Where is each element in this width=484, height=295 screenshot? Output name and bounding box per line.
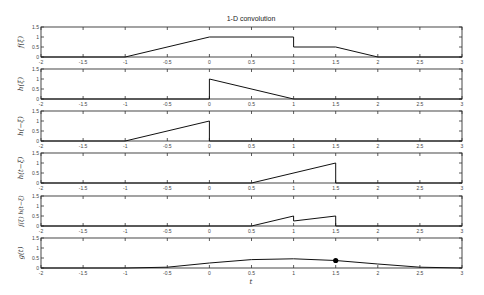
axes-frame bbox=[41, 27, 462, 57]
subplot-f: -2-1.5-1-0.500.511.522.5300.511.5f(ξ) bbox=[17, 24, 464, 65]
x-tick-label: 3 bbox=[461, 101, 464, 107]
x-tick-label: -1 bbox=[123, 143, 128, 149]
y-tick-label: 0 bbox=[36, 96, 39, 102]
x-tick-label: -1 bbox=[123, 228, 128, 234]
x-tick-label: 0.5 bbox=[248, 228, 255, 234]
convolution-figure: 1-D convolution -2-1.5-1-0.500.511.522.5… bbox=[0, 0, 484, 295]
y-axis-label: h(ξ) bbox=[17, 77, 25, 91]
x-tick-label: 0.5 bbox=[248, 185, 255, 191]
subplot-product: -2-1.5-1-0.500.511.522.5300.511.5f(ξ) h(… bbox=[17, 193, 464, 234]
x-tick-label: -1 bbox=[123, 101, 128, 107]
x-tick-label: -1.5 bbox=[79, 59, 88, 65]
axes-frame bbox=[41, 238, 462, 268]
chart-title: 1-D convolution bbox=[227, 15, 276, 22]
x-tick-label: 3 bbox=[461, 228, 464, 234]
y-tick-label: 1 bbox=[36, 160, 39, 166]
y-tick-label: 1.5 bbox=[32, 108, 39, 114]
y-tick-label: 0 bbox=[36, 265, 39, 271]
y-tick-label: 0.5 bbox=[32, 213, 39, 219]
x-tick-label: -1 bbox=[123, 59, 128, 65]
x-tick-label: -1.5 bbox=[79, 270, 88, 276]
axes-frame bbox=[41, 196, 462, 226]
x-tick-label: 0 bbox=[208, 185, 211, 191]
subplot-h_flipped: -2-1.5-1-0.500.511.522.5300.511.5h(−ξ) bbox=[17, 108, 464, 149]
x-tick-label: 3 bbox=[461, 270, 464, 276]
x-tick-label: 1.5 bbox=[332, 185, 339, 191]
y-tick-label: 0 bbox=[36, 54, 39, 60]
y-tick-label: 1 bbox=[36, 34, 39, 40]
x-tick-label: 2 bbox=[376, 228, 379, 234]
y-tick-label: 1.5 bbox=[32, 193, 39, 199]
x-tick-label: 2.5 bbox=[416, 228, 423, 234]
axes-frame bbox=[41, 153, 462, 183]
y-tick-label: 1.5 bbox=[32, 150, 39, 156]
y-tick-label: 1 bbox=[36, 203, 39, 209]
subplot-stack: -2-1.5-1-0.500.511.522.5300.511.5f(ξ)-2-… bbox=[17, 24, 464, 276]
y-tick-label: 0 bbox=[36, 180, 39, 186]
x-tick-label: -1.5 bbox=[79, 101, 88, 107]
x-tick-label: 2 bbox=[376, 101, 379, 107]
x-tick-label: -2 bbox=[39, 228, 44, 234]
y-tick-label: 1 bbox=[36, 118, 39, 124]
current-t-marker bbox=[333, 258, 338, 263]
x-tick-label: 1 bbox=[292, 143, 295, 149]
x-tick-label: -1.5 bbox=[79, 143, 88, 149]
axes-frame bbox=[41, 111, 462, 141]
x-tick-label: 0.5 bbox=[248, 59, 255, 65]
x-tick-label: 0 bbox=[208, 59, 211, 65]
x-tick-label: 1.5 bbox=[332, 270, 339, 276]
subplot-g: -2-1.5-1-0.500.511.522.5300.511.5g(t) bbox=[17, 235, 464, 276]
axes-frame bbox=[41, 69, 462, 99]
x-tick-label: 1.5 bbox=[332, 101, 339, 107]
x-tick-label: 0.5 bbox=[248, 270, 255, 276]
x-tick-label: 2.5 bbox=[416, 143, 423, 149]
y-tick-label: 0 bbox=[36, 223, 39, 229]
x-tick-label: -0.5 bbox=[163, 270, 172, 276]
y-tick-label: 0.5 bbox=[32, 86, 39, 92]
y-tick-label: 0.5 bbox=[32, 255, 39, 261]
x-tick-label: 1 bbox=[292, 228, 295, 234]
x-tick-label: 2.5 bbox=[416, 101, 423, 107]
y-tick-label: 0.5 bbox=[32, 44, 39, 50]
y-tick-label: 1 bbox=[36, 76, 39, 82]
y-axis-label: f(ξ) bbox=[17, 36, 25, 49]
x-tick-label: 3 bbox=[461, 59, 464, 65]
x-tick-label: 0 bbox=[208, 143, 211, 149]
x-tick-label: 0.5 bbox=[248, 143, 255, 149]
x-axis-label: t bbox=[250, 278, 253, 286]
y-tick-label: 0 bbox=[36, 138, 39, 144]
x-tick-label: 0 bbox=[208, 101, 211, 107]
x-tick-label: -0.5 bbox=[163, 185, 172, 191]
x-tick-label: 2.5 bbox=[416, 185, 423, 191]
y-axis-label: f(ξ) h(t−ξ) bbox=[17, 195, 25, 228]
y-tick-label: 1 bbox=[36, 245, 39, 251]
x-tick-label: 1.5 bbox=[332, 228, 339, 234]
x-tick-label: 2 bbox=[376, 270, 379, 276]
x-tick-label: 1 bbox=[292, 59, 295, 65]
y-tick-label: 1.5 bbox=[32, 24, 39, 30]
x-tick-label: -1 bbox=[123, 185, 128, 191]
x-tick-label: 0 bbox=[208, 270, 211, 276]
x-tick-label: 1.5 bbox=[332, 59, 339, 65]
x-tick-label: 2.5 bbox=[416, 270, 423, 276]
x-tick-label: -1.5 bbox=[79, 185, 88, 191]
x-tick-label: -2 bbox=[39, 101, 44, 107]
x-tick-label: -1 bbox=[123, 270, 128, 276]
x-tick-label: 3 bbox=[461, 143, 464, 149]
y-tick-label: 0.5 bbox=[32, 128, 39, 134]
x-tick-label: -2 bbox=[39, 143, 44, 149]
x-tick-label: 1.5 bbox=[332, 143, 339, 149]
x-tick-label: 2 bbox=[376, 143, 379, 149]
x-tick-label: 0.5 bbox=[248, 101, 255, 107]
x-tick-label: 1 bbox=[292, 270, 295, 276]
subplot-h: -2-1.5-1-0.500.511.522.5300.511.5h(ξ) bbox=[17, 66, 464, 107]
x-tick-label: 2.5 bbox=[416, 59, 423, 65]
y-tick-label: 1.5 bbox=[32, 235, 39, 241]
x-tick-label: -2 bbox=[39, 59, 44, 65]
x-tick-label: -0.5 bbox=[163, 59, 172, 65]
y-axis-label: g(t) bbox=[17, 246, 25, 259]
x-tick-label: -2 bbox=[39, 270, 44, 276]
y-tick-label: 0.5 bbox=[32, 170, 39, 176]
x-tick-label: 2 bbox=[376, 59, 379, 65]
y-axis-label: h(t−ξ) bbox=[17, 156, 25, 179]
